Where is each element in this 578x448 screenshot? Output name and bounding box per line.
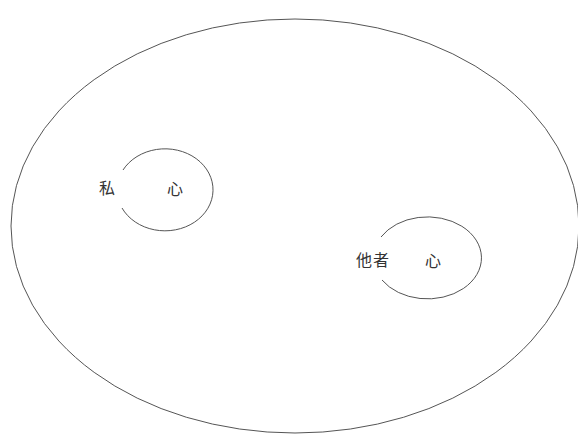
outer-ellipse — [11, 19, 578, 433]
other-mind-label: 心 — [425, 253, 441, 271]
diagram-canvas — [0, 0, 578, 448]
self-mind-label: 心 — [167, 181, 183, 199]
other-label: 他者 — [356, 252, 390, 270]
self-label: 私 — [99, 180, 115, 198]
